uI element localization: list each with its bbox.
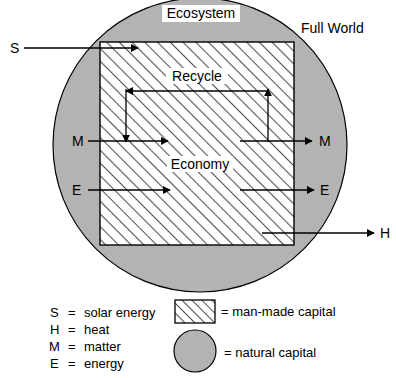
flow-label-s: S [10, 40, 19, 56]
legend-eq-s: = [68, 305, 76, 320]
flow-label-m-right: M [319, 133, 331, 149]
legend-label-man-made: = man-made capital [221, 304, 336, 319]
legend-symbol-e: E [50, 356, 59, 371]
legend-row-h: H = heat [50, 322, 110, 337]
legend-symbol-h: H [50, 322, 59, 337]
label-ecosystem-text: Ecosystem [167, 5, 235, 21]
legend-eq-m: = [68, 339, 76, 354]
label-recycle: Recycle [166, 68, 228, 84]
legend-row-e: E = energy [50, 356, 124, 371]
flow-label-e-right: E [320, 182, 329, 198]
flow-label-e-left: E [72, 182, 81, 198]
legend-abbreviations: S = solar energy H = heat M = matter E =… [49, 305, 156, 371]
label-economy-text: Economy [171, 156, 229, 172]
label-full-world: Full World [301, 20, 364, 36]
legend-meaning-e: energy [84, 356, 124, 371]
natural-capital-swatch [174, 330, 216, 372]
legend-eq-e: = [68, 356, 76, 371]
legend-row-m: M = matter [49, 339, 122, 354]
legend-meaning-h: heat [84, 322, 110, 337]
legend-eq-h: = [68, 322, 76, 337]
man-made-capital-swatch [175, 300, 215, 323]
flow-label-h: H [380, 225, 390, 241]
flow-label-m-left: M [72, 133, 84, 149]
legend-meaning-s: solar energy [84, 305, 156, 320]
legend-swatch-man-made: = man-made capital [175, 300, 336, 323]
full-world-diagram: Ecosystem Full World Recycle Economy S M… [0, 0, 396, 378]
legend-swatch-natural: = natural capital [174, 330, 316, 372]
legend-label-natural: = natural capital [224, 345, 316, 360]
diagram-root: Ecosystem Full World Recycle Economy S M… [0, 0, 396, 378]
label-economy: Economy [167, 156, 233, 172]
legend-row-s: S = solar energy [50, 305, 156, 320]
label-recycle-text: Recycle [172, 68, 222, 84]
label-ecosystem: Ecosystem [162, 5, 240, 22]
legend-symbol-s: S [50, 305, 59, 320]
legend-meaning-m: matter [84, 339, 122, 354]
legend-symbol-m: M [49, 339, 60, 354]
